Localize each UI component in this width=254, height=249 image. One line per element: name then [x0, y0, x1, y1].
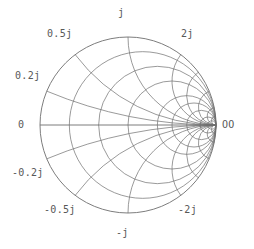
- label-resistance-zero: 0: [18, 120, 24, 130]
- label-reactance-minus2j: -2j: [178, 205, 197, 215]
- reactance-arc-x2: [172, 55, 216, 125]
- label-reactance-0.2j: 0.2j: [15, 71, 40, 81]
- label-reactance-j: j: [118, 8, 124, 18]
- smith-chart-canvas: [0, 0, 254, 249]
- label-reactance-minus0.5j: -0.5j: [44, 205, 76, 215]
- label-reactance-minusj: -j: [116, 228, 129, 238]
- label-reactance-minus0.2j: -0.2j: [12, 168, 44, 178]
- smith-chart-figure: j 0.5j 2j 0.2j 0 OO -0.2j -0.5j -2j -j: [0, 0, 254, 249]
- label-reactance-2j: 2j: [181, 29, 194, 39]
- label-resistance-infinity: OO: [222, 120, 235, 130]
- reactance-arc-x-2: [172, 125, 216, 195]
- label-reactance-0.5j: 0.5j: [47, 29, 72, 39]
